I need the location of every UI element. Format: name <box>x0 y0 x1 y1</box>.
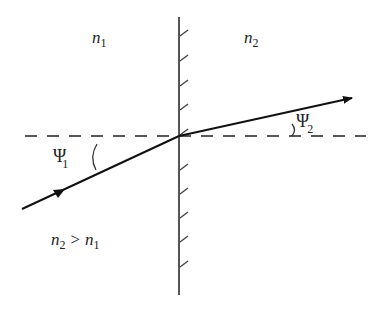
refracted-angle-arc <box>292 124 295 136</box>
hatch-mark <box>180 30 188 36</box>
label-condition: n2>n1 <box>51 230 100 252</box>
interface-hatching <box>180 30 188 267</box>
hatch-mark <box>180 236 188 242</box>
label-n2: n2 <box>244 28 259 50</box>
hatch-mark <box>180 55 188 61</box>
incident-angle-arc <box>93 144 97 170</box>
label-psi2: Ψ2 <box>296 111 313 136</box>
hatch-mark <box>180 261 188 267</box>
hatch-mark <box>180 164 188 170</box>
refracted-ray <box>179 98 352 136</box>
hatch-mark <box>180 212 188 218</box>
incident-ray <box>22 136 179 209</box>
diagram-canvas: n1 n2 Ψ1 Ψ2 n2>n1 <box>0 0 379 313</box>
label-n1: n1 <box>92 28 107 50</box>
hatch-mark <box>180 188 188 194</box>
hatch-mark <box>180 104 188 110</box>
refraction-diagram: n1 n2 Ψ1 Ψ2 n2>n1 <box>0 0 379 313</box>
hatch-mark <box>180 80 188 86</box>
label-psi1: Ψ1 <box>53 146 68 171</box>
